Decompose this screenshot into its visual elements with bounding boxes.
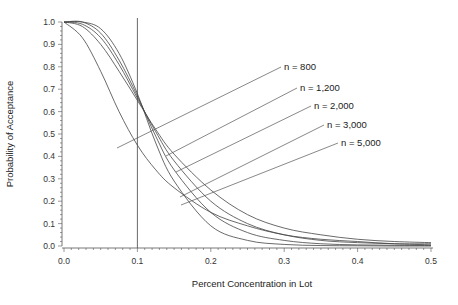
y-tick-label: 0.0	[43, 241, 55, 251]
y-tick-label: 0.8	[43, 62, 55, 72]
label-n-5000: n = 5,000	[341, 137, 381, 148]
leader-n-5000	[181, 143, 338, 205]
y-tick-label: 0.3	[43, 174, 55, 184]
oc-curve-chart: 0.00.10.20.30.40.50.60.70.80.91.00.00.10…	[0, 0, 458, 305]
label-n-3000: n = 3,000	[327, 119, 367, 130]
y-tick-label: 1.0	[43, 17, 55, 27]
oc-curve-5000	[64, 22, 431, 247]
x-tick-label: 0.3	[278, 256, 290, 266]
leader-n-1200	[166, 88, 297, 156]
y-tick-label: 0.1	[43, 219, 55, 229]
x-tick-label: 0.5	[425, 256, 437, 266]
oc-curve-800	[64, 22, 431, 244]
oc-curve-1200	[64, 22, 431, 243]
x-tick-label: 0.2	[205, 256, 217, 266]
oc-curve-2000	[64, 22, 431, 245]
x-axis-title: Percent Concentration in Lot	[192, 278, 313, 289]
leader-n-3000	[180, 125, 324, 197]
y-tick-label: 0.5	[43, 129, 55, 139]
x-tick-label: 0.4	[352, 256, 364, 266]
y-tick-label: 0.6	[43, 107, 55, 117]
y-tick-label: 0.4	[43, 151, 55, 161]
x-tick-label: 0.1	[131, 256, 143, 266]
y-tick-label: 0.9	[43, 39, 55, 49]
oc-curve-3000	[64, 21, 431, 245]
label-n-1200: n = 1,200	[300, 82, 340, 93]
y-tick-label: 0.7	[43, 84, 55, 94]
label-n-2000: n = 2,000	[314, 100, 354, 111]
y-tick-label: 0.2	[43, 196, 55, 206]
y-axis-title: Probability of Acceptance	[4, 81, 15, 188]
x-tick-label: 0.0	[58, 256, 70, 266]
curves	[64, 21, 431, 246]
label-n-800: n = 800	[284, 61, 316, 72]
